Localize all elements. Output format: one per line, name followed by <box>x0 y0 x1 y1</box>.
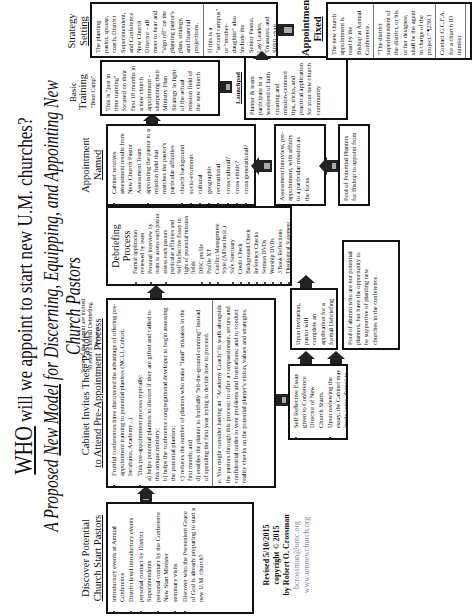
title-rest: will we appoint to start new U.M. church… <box>12 117 37 426</box>
discover-heading-line1: Discover Potential <box>80 502 92 614</box>
debriefing-box: Debriefing Process Formal application re… <box>106 206 292 286</box>
debriefing-heading: Debriefing Process <box>110 211 132 281</box>
arrow-down-icon <box>276 394 288 406</box>
divider <box>465 4 466 58</box>
strategy-heading: Strategy Setting <box>66 2 89 60</box>
named-item: cross ethnic? <box>233 129 241 194</box>
strategy-heading-line1: Strategy <box>66 2 78 60</box>
debriefing-item: assess each pastors particular affinitie… <box>162 211 197 274</box>
debriefing-item: Worship DVDs <box>269 211 276 274</box>
arrow-right-icon <box>140 493 152 502</box>
debriefing-item: Safe Sanctuary <box>229 211 236 274</box>
debriefing-item: Credit Check <box>237 211 244 274</box>
launchpad-box: Planter & team participate in a weekend … <box>244 56 348 120</box>
discover-heading-line2: Church Start Pastors <box>92 502 104 614</box>
website-link[interactable]: www.umnewchurch.org <box>302 500 312 610</box>
debriefing-heading-line2: Process <box>121 211 132 281</box>
invitation-text: Upon invitation, pastor will complete an… <box>294 293 338 345</box>
divider <box>435 4 436 58</box>
debriefing-item: Profile XT <box>206 211 213 274</box>
arrow-down-icon <box>220 81 232 93</box>
launchpad-heading: Launchpad <box>234 56 241 120</box>
named-heading: Appointment Named <box>80 124 103 206</box>
strategy-box: The planting pastor, spouse, coach, Dist… <box>90 2 278 58</box>
divider <box>203 4 204 56</box>
page-subtitle: A Proposed New Model for Discerning, Equ… <box>40 80 84 532</box>
subtitle-emphasis: New Model <box>40 384 62 455</box>
fixed-cell: The Planting Pastor moves to the <box>468 7 472 55</box>
title-who: WHO <box>9 426 38 474</box>
page-title: WHO will we appoint to start new U.M. ch… <box>12 78 37 515</box>
cabinet-item-b: b) helps the conference congregational d… <box>161 303 177 481</box>
debriefing-item: Personal interview by team to assess eac… <box>147 211 161 274</box>
fixed-cell: The new church appointment is read by th… <box>330 7 371 55</box>
debriefing-item: Sermon DVDs <box>261 211 268 274</box>
training-heading-line1: Training <box>78 62 88 122</box>
fixed-box: The new church appointment is read by th… <box>326 2 472 60</box>
invitation-box: Upon invitation, pastor will complete an… <box>290 288 338 350</box>
copyright: copyright © 2015 <box>272 500 282 610</box>
named-item: cross generational? <box>242 129 250 194</box>
training-heading-line2: "Boot Camp" <box>88 62 98 122</box>
cabinet-item: This pre-appointment process typically: <box>136 303 144 476</box>
revised-date: Revised 5/10/2015 <box>262 500 272 610</box>
self-reflective-box: Self Reflective Essay given to Conferenc… <box>288 364 348 440</box>
discover-box: introductory events at Annual Conference… <box>106 502 254 614</box>
debriefing-heading-line1: Debriefing <box>110 211 121 281</box>
strategy-item: The planting pastor, spouse, coach, Dist… <box>94 7 201 53</box>
footer-credits: Revised 5/10/2015 copyright © 2015 by Ro… <box>262 500 312 610</box>
cabinet-note: e. You might consider having an "Academy… <box>215 303 248 483</box>
named-item: appointing the pastor to a mission field… <box>144 129 177 194</box>
author: by Robert O. Crossman <box>282 500 292 610</box>
assessment-interview-text: Assessment Interview, pre-appointment, w… <box>278 129 311 201</box>
named-item: church background <box>178 129 186 194</box>
cabinet-item-c: c) reduces the number of planters who ma… <box>178 303 194 481</box>
discover-item: District level introductory events <box>127 507 135 602</box>
arrow-right-icon <box>150 292 162 298</box>
pool-planters-box: Pool of Potential Planters for Bishop to… <box>338 124 370 206</box>
arrow-up-icon <box>258 160 272 172</box>
discover-item: Discover who the Prevenient Grace of God… <box>181 507 206 602</box>
debriefing-item: Conflict Management Style (Allban Instit… <box>214 211 228 274</box>
arrow-down-icon <box>278 24 294 36</box>
named-item: geographic <box>205 129 213 194</box>
launchpad-text: Planter & team participate in a weekend … <box>248 61 322 115</box>
debriefing-item: Formal application reviewed by team <box>132 211 146 274</box>
debriefing-item: Theological Statement <box>285 211 292 274</box>
discover-item: seminary visits <box>171 507 179 602</box>
arrow-right-icon <box>256 58 268 60</box>
pool-nonplanters-text: Pool of alumni who are not potential pla… <box>346 245 379 345</box>
named-item: cultural <box>196 129 204 194</box>
debriefing-item: DISC profile <box>198 211 205 274</box>
cabinet-item: Fruitful conferences have discovered the… <box>110 303 135 476</box>
cabinet-item-a: a) helps potential planters to discern i… <box>145 303 161 481</box>
fixed-heading-line2: Fixed <box>312 2 324 56</box>
self-reflective-item: Upon reviewing the essay, the Cabinet ma… <box>326 369 348 428</box>
discover-item: introductory events at Annual Conference <box>110 507 126 602</box>
named-item: recreational <box>214 129 222 194</box>
fixed-heading: Appointment Fixed <box>300 2 323 56</box>
cabinet-item-d: d) enables the planter to fruitfully "hi… <box>194 303 210 481</box>
named-heading-line1: Appointment <box>80 124 92 206</box>
subtitle-post: for Discerning, Equipping, and Appointin… <box>40 80 84 384</box>
arrow-right-icon <box>146 120 158 124</box>
arrow-right-icon <box>330 358 342 364</box>
divider <box>373 4 374 58</box>
self-reflective-item: Self Reflective Essay given to Conferenc… <box>292 369 325 428</box>
pool-planters-text: Pool of Potential Planters for Bishop to… <box>342 129 358 201</box>
cabinet-box: Fruitful conferences have discovered the… <box>106 298 276 488</box>
fixed-cell: "The district superintendent of the dist… <box>376 7 433 55</box>
fixed-heading-line1: Appointment <box>300 2 312 56</box>
training-box: This is "just in time training" focused … <box>100 60 220 116</box>
training-text: This is "just in time training" focused … <box>104 65 202 111</box>
arrow-right-icon <box>300 358 312 364</box>
discover-heading: Discover Potential Church Start Pastors <box>80 502 103 614</box>
named-box: Cabinet receives assessment results from… <box>106 124 256 206</box>
debriefing-note: Some of the alumni are invited to enter … <box>80 298 101 374</box>
debriefing-item: Reference Checks <box>253 211 260 274</box>
divider <box>212 300 213 486</box>
named-item: Cabinet receives assessment results from… <box>110 129 143 194</box>
discover-item: personal contact by the Conference New S… <box>154 507 170 602</box>
discover-item: personal contact by District Superintend… <box>137 507 153 602</box>
email-link[interactable]: bcrossman@umc.org <box>292 500 302 610</box>
